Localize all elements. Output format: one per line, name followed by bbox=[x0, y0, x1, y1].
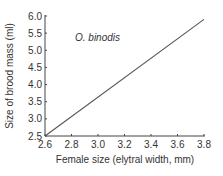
y-tick-label: 3.5 bbox=[28, 96, 42, 107]
y-tick-label: 4.0 bbox=[28, 79, 42, 90]
x-tick-label: 3.6 bbox=[171, 139, 185, 150]
y-tick-label: 5.5 bbox=[28, 28, 42, 39]
y-tick-label: 6.0 bbox=[28, 11, 42, 22]
y-tick-label: 5.0 bbox=[28, 45, 42, 56]
regression-line bbox=[45, 19, 204, 136]
x-tick-label: 3.4 bbox=[144, 139, 158, 150]
species-annotation: O. binodis bbox=[75, 32, 120, 43]
x-tick-label: 3.8 bbox=[197, 139, 211, 150]
y-tick-label: 4.5 bbox=[28, 62, 42, 73]
y-axis-label: Size of brood mass (ml) bbox=[4, 23, 15, 129]
y-tick-label: 3.0 bbox=[28, 113, 42, 124]
x-tick-label: 2.6 bbox=[38, 139, 52, 150]
x-tick-label: 2.8 bbox=[65, 139, 79, 150]
x-tick-label: 3.0 bbox=[91, 139, 105, 150]
data-series bbox=[45, 19, 204, 136]
x-axis-label: Female size (elytral width, mm) bbox=[56, 154, 194, 165]
x-tick-label: 3.2 bbox=[118, 139, 132, 150]
line-chart: 2.53.03.54.04.55.05.56.02.62.83.03.23.43… bbox=[0, 0, 223, 176]
